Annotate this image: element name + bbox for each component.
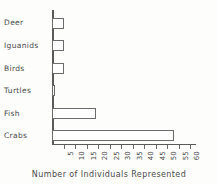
x-tick-50 [167,145,168,149]
x-tick-label-25: 25 [113,151,121,160]
x-tick-label-10: 10 [78,151,86,160]
plot-area: 51015202530354045505560 [52,10,198,145]
bar-iguanids [52,40,64,51]
x-tick-label-30: 30 [124,151,132,160]
x-tick-label-50: 50 [170,151,178,160]
category-label-iguanids: Iguanids [4,41,50,50]
bar-chart: Deer Iguanids Birds Turtles Fish Crabs 5… [0,0,218,184]
x-tick-25 [110,145,111,149]
category-label-birds: Birds [4,64,50,73]
category-axis [52,10,54,145]
x-tick-10 [75,145,76,149]
bar-deer [52,18,64,29]
category-label-crabs: Crabs [4,131,50,140]
x-tick-5 [64,145,65,149]
category-label-deer: Deer [4,18,50,27]
x-tick-45 [156,145,157,149]
x-tick-55 [179,145,180,149]
bar-fish [52,108,96,119]
x-tick-60 [190,145,191,149]
x-tick-label-35: 35 [136,151,144,160]
bar-crabs [52,130,174,141]
category-label-turtles: Turtles [4,86,50,95]
x-tick-40 [144,145,145,149]
x-tick-label-45: 45 [159,151,167,160]
bar-birds [52,63,64,74]
bar-turtles [52,85,55,96]
x-tick-label-40: 40 [147,151,155,160]
x-tick-15 [87,145,88,149]
x-tick-label-15: 15 [90,151,98,160]
x-tick-label-20: 20 [101,151,109,160]
x-tick-20 [98,145,99,149]
x-tick-label-55: 55 [182,151,190,160]
x-tick-35 [133,145,134,149]
value-axis [52,144,196,145]
category-label-fish: Fish [4,109,50,118]
x-tick-30 [121,145,122,149]
x-axis-title: Number of Individuals Represented [0,170,218,179]
x-tick-label-5: 5 [67,151,75,156]
x-tick-label-60: 60 [193,151,201,160]
